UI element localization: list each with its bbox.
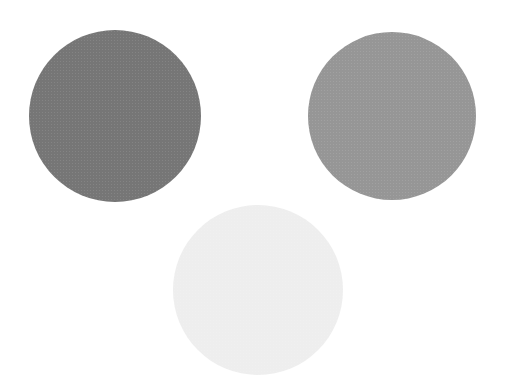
medium-gray-circle (308, 32, 476, 200)
near-white-circle (173, 205, 343, 375)
dark-gray-circle (29, 30, 201, 202)
